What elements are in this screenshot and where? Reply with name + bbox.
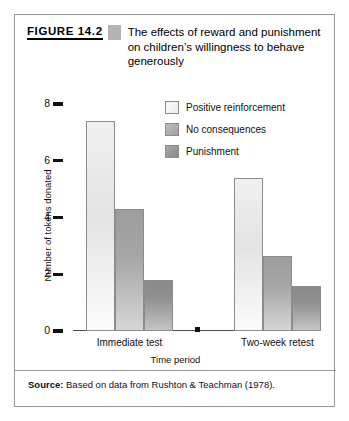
chart-plot-area: 02468 Number of tokens donated Immediate… (15, 15, 336, 408)
bar (234, 178, 263, 331)
source-label: Source: (28, 379, 63, 390)
y-axis-tick (53, 102, 63, 105)
legend-item: No consequences (165, 123, 285, 136)
legend-label: No consequences (186, 124, 266, 135)
legend-label: Punishment (186, 146, 239, 157)
source-divider (15, 370, 336, 371)
source-text: Based on data from Rushton & Teachman (1… (66, 379, 275, 390)
bar (86, 121, 115, 331)
bar (144, 280, 173, 331)
y-axis-tick (53, 216, 63, 219)
x-axis-category-label: Immediate test (70, 337, 190, 348)
legend-swatch-punishment (165, 145, 179, 158)
chart-legend: Positive reinforcement No consequences P… (165, 101, 285, 167)
source-note: Source: Based on data from Rushton & Tea… (28, 379, 275, 390)
x-axis-category-label: Two-week retest (218, 337, 338, 348)
x-axis-title: Time period (15, 354, 336, 365)
legend-label: Positive reinforcement (186, 102, 285, 113)
y-axis-tick (53, 273, 63, 276)
y-axis-title: Number of tokens donated (42, 151, 53, 301)
legend-item: Positive reinforcement (165, 101, 285, 114)
bar (292, 286, 321, 331)
x-axis-mid-tick (195, 327, 200, 332)
y-axis-tick-label: 0 (37, 324, 50, 336)
y-axis-tick (53, 159, 63, 162)
y-axis-tick-label: 8 (37, 97, 50, 109)
y-axis-tick (53, 329, 63, 332)
bar (263, 256, 292, 331)
legend-item: Punishment (165, 145, 285, 158)
figure-container: FIGURE 14.2 The effects of reward and pu… (14, 14, 335, 407)
legend-swatch-positive-reinforcement (165, 101, 179, 114)
legend-swatch-no-consequences (165, 123, 179, 136)
bar (115, 209, 144, 331)
